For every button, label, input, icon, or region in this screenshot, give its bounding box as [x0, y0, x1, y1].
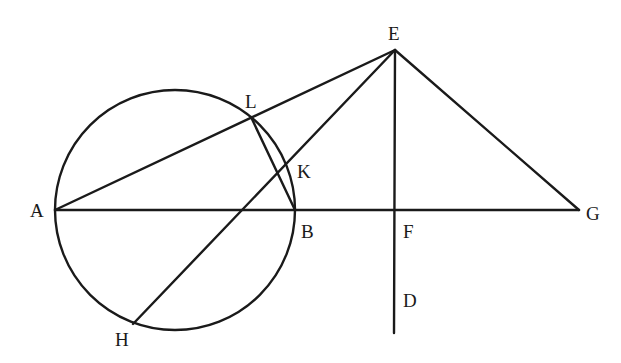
- point-label-e: E: [388, 23, 400, 44]
- line-EG: [395, 50, 579, 210]
- point-label-a: A: [30, 200, 44, 221]
- point-label-h: H: [115, 329, 129, 350]
- point-label-g: G: [586, 203, 600, 224]
- point-label-f: F: [403, 221, 414, 242]
- point-label-b: B: [301, 221, 314, 242]
- point-label-k: K: [297, 161, 311, 182]
- line-LB: [251, 117, 295, 210]
- point-label-d: D: [403, 290, 417, 311]
- geometry-diagram: ABEFGDHLK: [0, 0, 621, 363]
- line-ED: [394, 50, 395, 333]
- segments: [55, 50, 579, 333]
- diagram-canvas: ABEFGDHLK: [0, 0, 621, 363]
- line-AE: [55, 50, 395, 210]
- point-labels: ABEFGDHLK: [30, 23, 600, 350]
- point-label-l: L: [245, 91, 257, 112]
